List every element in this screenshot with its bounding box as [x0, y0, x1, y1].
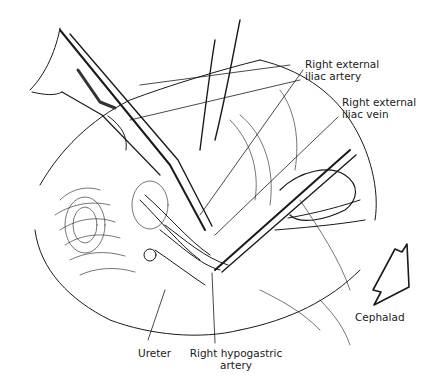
label-line: Right external: [305, 58, 379, 70]
label-line: Cephalad: [355, 311, 405, 323]
label-line: Right external: [342, 96, 416, 108]
label-right-external-iliac-artery: Right external iliac artery: [305, 58, 379, 82]
label-cephalad: Cephalad: [355, 311, 405, 323]
label-line: Right hypogastric: [180, 347, 292, 359]
label-line: artery: [180, 359, 292, 371]
label-line: iliac vein: [342, 108, 416, 120]
label-right-external-iliac-vein: Right external iliac vein: [342, 96, 416, 120]
label-line: Ureter: [138, 347, 171, 359]
label-right-hypogastric-artery: Right hypogastric artery: [180, 347, 292, 371]
label-ureter: Ureter: [138, 347, 171, 359]
label-line: iliac artery: [305, 70, 379, 82]
